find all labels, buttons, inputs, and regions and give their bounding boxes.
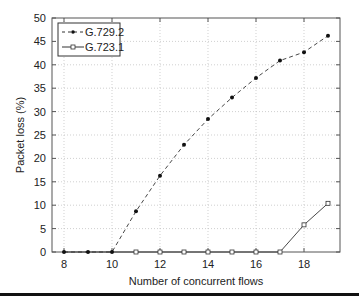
data-series: [62, 34, 330, 254]
y-tick-label: 20: [34, 152, 46, 164]
dot-marker-icon: [278, 59, 282, 63]
square-marker-icon: [182, 250, 186, 254]
y-axis-label: Packet loss (%): [14, 97, 26, 173]
dot-marker-icon: [71, 30, 75, 34]
y-tick-label: 25: [34, 129, 46, 141]
series-line-1: [64, 203, 328, 252]
square-marker-icon: [326, 201, 330, 205]
x-tick-label: 18: [298, 258, 310, 270]
square-marker-icon: [206, 250, 210, 254]
dot-marker-icon: [326, 34, 330, 38]
dot-marker-icon: [158, 174, 162, 178]
y-tick-label: 10: [34, 199, 46, 211]
packet-loss-chart: 0510152025303540455081012141618 Number o…: [0, 0, 359, 304]
x-axis-label: Number of concurrent flows: [129, 275, 264, 287]
x-tick-label: 14: [202, 258, 214, 270]
square-marker-icon: [230, 250, 234, 254]
y-tick-label: 5: [40, 223, 46, 235]
y-tick-label: 45: [34, 35, 46, 47]
square-marker-icon: [71, 45, 75, 49]
y-tick-label: 50: [34, 12, 46, 24]
series-line-0: [64, 36, 328, 252]
dot-marker-icon: [302, 50, 306, 54]
bottom-rule: [0, 293, 359, 296]
legend-label-g7292: G.729.2: [85, 26, 124, 38]
y-tick-label: 40: [34, 59, 46, 71]
y-tick-label: 0: [40, 246, 46, 258]
dot-marker-icon: [254, 76, 258, 80]
x-tick-label: 8: [61, 258, 67, 270]
legend: G.729.2 G.723.1: [58, 23, 124, 56]
x-tick-label: 12: [154, 258, 166, 270]
legend-label-g7231: G.723.1: [85, 41, 124, 53]
square-marker-icon: [278, 250, 282, 254]
square-marker-icon: [134, 250, 138, 254]
square-marker-icon: [158, 250, 162, 254]
dot-marker-icon: [86, 250, 90, 254]
square-marker-icon: [254, 250, 258, 254]
dot-marker-icon: [134, 209, 138, 213]
y-tick-label: 30: [34, 106, 46, 118]
x-tick-label: 10: [106, 258, 118, 270]
y-tick-label: 15: [34, 176, 46, 188]
x-tick-label: 16: [250, 258, 262, 270]
dot-marker-icon: [230, 96, 234, 100]
dot-marker-icon: [206, 117, 210, 121]
square-marker-icon: [302, 223, 306, 227]
y-tick-label: 35: [34, 82, 46, 94]
dot-marker-icon: [182, 143, 186, 147]
dot-marker-icon: [110, 250, 114, 254]
dot-marker-icon: [62, 250, 66, 254]
